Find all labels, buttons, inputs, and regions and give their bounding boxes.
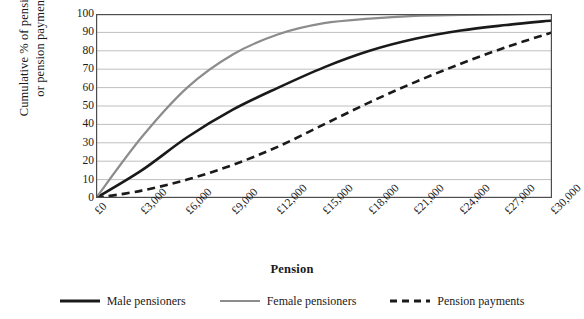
legend-item-pension-payments: Pension payments bbox=[390, 295, 524, 307]
chart-figure: Cumulative % of pensioners or pension pa… bbox=[0, 0, 584, 319]
legend-swatch-pension-payments bbox=[390, 296, 430, 306]
legend-label-male-pensioners: Male pensioners bbox=[107, 295, 186, 307]
x-tick-label: £0 bbox=[92, 200, 109, 217]
legend-label-pension-payments: Pension payments bbox=[437, 295, 524, 307]
legend-item-female-pensioners: Female pensioners bbox=[220, 295, 357, 307]
x-tick-label: £9,000 bbox=[229, 186, 260, 217]
x-tick-label: £24,000 bbox=[457, 182, 492, 217]
x-tick-label: £6,000 bbox=[183, 186, 214, 217]
legend-item-male-pensioners: Male pensioners bbox=[60, 295, 186, 307]
x-tick-label: £21,000 bbox=[411, 182, 446, 217]
x-axis-title: Pension bbox=[0, 262, 584, 277]
x-tick-label: £27,000 bbox=[502, 182, 537, 217]
legend-label-female-pensioners: Female pensioners bbox=[267, 295, 357, 307]
x-tick-label: £30,000 bbox=[548, 182, 583, 217]
legend-swatch-female-pensioners bbox=[220, 296, 260, 306]
x-tick-label: £15,000 bbox=[320, 182, 355, 217]
x-tick-label: £18,000 bbox=[366, 182, 401, 217]
x-tick-label: £3,000 bbox=[138, 186, 169, 217]
x-tick-label: £12,000 bbox=[274, 182, 309, 217]
chart-legend: Male pensioners Female pensioners Pensio… bbox=[0, 290, 584, 312]
legend-swatch-male-pensioners bbox=[60, 296, 100, 306]
